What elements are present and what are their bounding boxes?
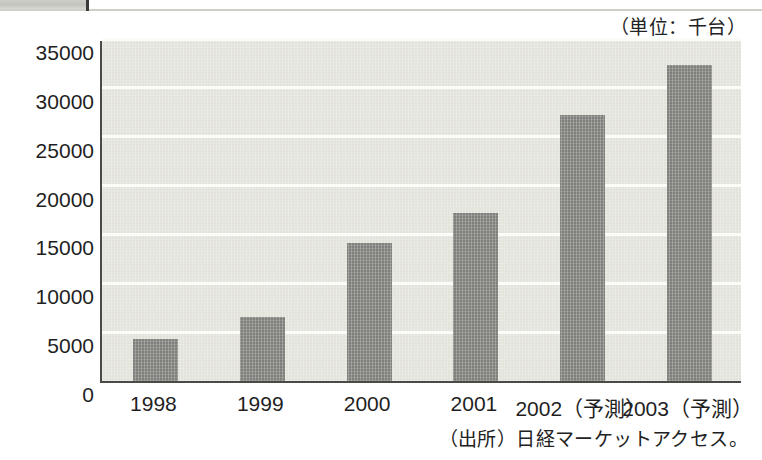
plot-area	[100, 41, 741, 383]
x-tick-label: 2000	[344, 392, 391, 416]
bar	[667, 65, 712, 381]
bar	[453, 213, 498, 381]
bar	[240, 317, 285, 381]
scan-tick-mark	[86, 0, 89, 11]
x-tick-label: 2003（予測）	[622, 392, 753, 422]
y-tick-text: 25000	[10, 139, 102, 163]
y-tick-text: 30000	[10, 90, 102, 114]
gridline	[102, 86, 741, 89]
bar-chart: 05000100001500020000250003000035000	[0, 38, 762, 388]
y-tick-text: 10000	[10, 285, 102, 309]
bar	[560, 115, 605, 381]
y-tick-text: 5000	[10, 334, 102, 358]
gridline	[102, 184, 741, 187]
source-note: （出所）日経マーケットアクセス。	[439, 424, 748, 451]
gridline	[102, 135, 741, 138]
x-tick-label: 2001	[451, 392, 498, 416]
bar	[347, 243, 392, 381]
x-tick-label: 1999	[237, 392, 284, 416]
scan-artifact-strip	[0, 0, 86, 9]
y-tick-text: 35000	[10, 41, 102, 65]
gridline	[102, 282, 741, 285]
y-tick-text: 0	[10, 383, 102, 407]
x-tick-label: 1998	[130, 392, 177, 416]
gridline	[102, 331, 741, 334]
y-tick-text: 20000	[10, 188, 102, 212]
gridline	[102, 38, 741, 41]
x-axis: 19981999200020012002（予測）2003（予測）	[100, 392, 741, 422]
gridline	[102, 233, 741, 236]
bar	[133, 339, 178, 381]
scan-top-rule	[0, 9, 762, 11]
y-tick-text: 15000	[10, 236, 102, 260]
unit-caption: （単位：千台）	[610, 12, 747, 39]
